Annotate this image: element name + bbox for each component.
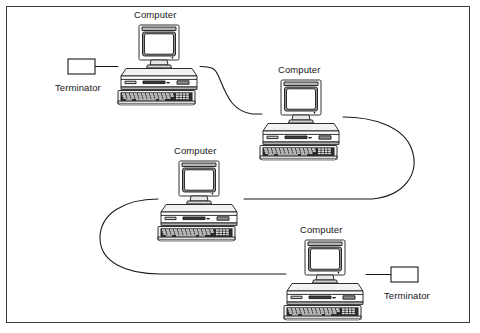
computer-1-icon [118,25,197,106]
terminator-left-label: Terminator [55,82,101,93]
computer-2-icon [260,80,339,161]
computer-layer [118,25,363,321]
computer-4-label: Computer [300,224,343,235]
network-diagram-canvas: Computer Computer Computer Computer Term… [0,0,480,333]
computer-4-icon [284,240,363,321]
cable-computer-1-to-computer-2 [200,67,262,115]
computer-1-label: Computer [134,9,177,20]
terminator-right-label: Terminator [384,290,430,301]
computer-3-label: Computer [174,145,217,156]
computer-3-icon [158,161,237,242]
terminator-left-box [68,59,95,74]
computer-2-label: Computer [278,64,321,75]
diagram-vector-layer [0,0,480,333]
terminator-right-box [391,267,418,282]
